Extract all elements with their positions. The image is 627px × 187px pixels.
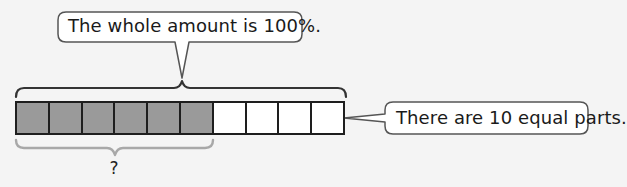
bar-cell-unshaded (214, 103, 247, 133)
unknown-percent-label: ? (104, 158, 124, 178)
bar-cell-shaded (148, 103, 181, 133)
bar-cell-unshaded (247, 103, 280, 133)
bar-cell-shaded (17, 103, 50, 133)
bar-cell-unshaded (312, 103, 343, 133)
bar-cell-shaded (181, 103, 214, 133)
bar-cell-shaded (50, 103, 83, 133)
bottom-brace (16, 140, 213, 155)
bar-cell-unshaded (279, 103, 312, 133)
bar-model (15, 101, 345, 135)
top-brace (16, 81, 346, 97)
right-callout-text: There are 10 equal parts. (396, 107, 627, 129)
bar-cell-shaded (115, 103, 148, 133)
bar-cell-shaded (83, 103, 116, 133)
top-callout-text: The whole amount is 100%. (68, 15, 321, 37)
